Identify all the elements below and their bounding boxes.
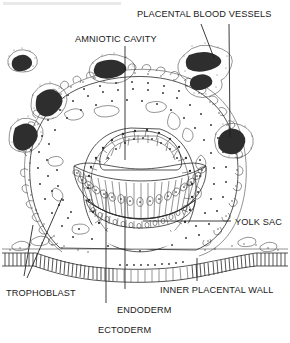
- label-amniotic-cavity: AMNIOTIC CAVITY: [75, 34, 157, 44]
- blood-vessel-left-bottom: [9, 115, 43, 152]
- endoderm-layer: [86, 200, 195, 229]
- label-endoderm: ENDODERM: [117, 305, 172, 315]
- label-ectoderm: ECTODERM: [98, 325, 151, 335]
- amniotic-cavity: [100, 131, 182, 170]
- blood-vessel-left-middle: [31, 81, 67, 119]
- embryo-diagram-figure: PLACENTAL BLOOD VESSELS AMNIOTIC CAVITY …: [0, 0, 290, 343]
- blood-vessel-right-top: [178, 42, 232, 97]
- diagram-canvas: PLACENTAL BLOOD VESSELS AMNIOTIC CAVITY …: [0, 0, 290, 343]
- blood-vessel-left-top: [8, 47, 38, 72]
- label-yolk-sac: YOLK SAC: [235, 217, 282, 227]
- placental-blood-vessels: [8, 42, 254, 158]
- yolk-sac-cavity: [90, 222, 190, 250]
- blood-vessel-right-lower: [215, 120, 254, 158]
- leader-blood-vessel-b: [229, 24, 230, 137]
- diagram-labels: PLACENTAL BLOOD VESSELS AMNIOTIC CAVITY …: [6, 9, 282, 335]
- label-inner-placental-wall: INNER PLACENTAL WALL: [160, 285, 273, 295]
- cut-off-header-artifact: [3, 2, 121, 5]
- label-trophoblast: TROPHOBLAST: [6, 288, 76, 298]
- label-placental-blood-vessels: PLACENTAL BLOOD VESSELS: [137, 9, 272, 19]
